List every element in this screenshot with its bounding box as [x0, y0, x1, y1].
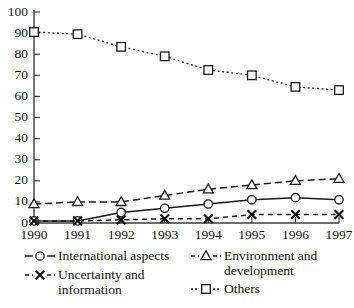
legend-column-right: Environment and development Others: [188, 248, 354, 300]
series-others: [30, 28, 344, 95]
legend-marker-circle-icon: [22, 248, 58, 264]
x-tick-label: 1992: [108, 227, 135, 242]
legend-label: International aspects: [58, 248, 169, 263]
data-point-square: [202, 285, 211, 294]
legend-item-uncertainty: Uncertainty and information: [22, 267, 190, 297]
data-point-square: [335, 86, 344, 95]
data-point-square: [248, 71, 257, 80]
y-tick-label: 70: [15, 67, 29, 82]
data-point-circle: [117, 208, 125, 216]
legend-item-others: Others: [188, 281, 354, 297]
data-point-circle: [204, 200, 212, 208]
x-tick-label: 1994: [195, 227, 222, 242]
data-point-circle: [36, 252, 44, 260]
legend-label: Uncertainty and information: [58, 267, 145, 297]
y-tick-label: 100: [8, 4, 29, 19]
data-point-triangle: [334, 173, 344, 182]
series-layer: [29, 28, 344, 225]
x-tick-label: 1993: [151, 227, 178, 242]
y-axis: 0102030405060708090100: [8, 4, 40, 230]
legend-marker-square-icon: [188, 281, 224, 297]
legend-label: Others: [224, 281, 260, 296]
y-tick-label: 30: [15, 151, 29, 166]
data-point-x: [36, 271, 45, 280]
x-tick-label: 1991: [64, 227, 91, 242]
data-point-circle: [161, 204, 169, 212]
y-tick-label: 50: [15, 109, 29, 124]
legend-label: Environment and development: [224, 248, 317, 278]
data-point-square: [204, 66, 213, 75]
y-tick-label: 40: [15, 130, 29, 145]
plot-area: 0102030405060708090100 19901991199219931…: [0, 0, 354, 245]
x-tick-label: 1990: [21, 227, 48, 242]
data-point-circle: [291, 193, 299, 201]
data-point-square: [160, 52, 169, 61]
y-tick-label: 90: [15, 25, 29, 40]
y-tick-label: 20: [15, 172, 29, 187]
legend-item-international: International aspects: [22, 248, 190, 264]
y-tick-label: 80: [15, 46, 29, 61]
x-tick-label: 1997: [326, 227, 353, 242]
series-line: [34, 32, 339, 90]
series-environment-and-development: [29, 173, 344, 207]
data-point-triangle: [201, 251, 211, 260]
legend-marker-x-icon: [22, 267, 58, 283]
data-point-circle: [335, 196, 343, 204]
chart-legend: International aspects Uncertainty and in…: [0, 248, 354, 308]
data-point-triangle: [73, 197, 83, 206]
line-chart: 0102030405060708090100 19901991199219931…: [0, 0, 354, 308]
data-point-square: [117, 43, 126, 52]
data-point-circle: [248, 196, 256, 204]
x-tick-label: 1995: [238, 227, 265, 242]
plot-svg: 0102030405060708090100 19901991199219931…: [0, 0, 354, 245]
legend-column-left: International aspects Uncertainty and in…: [22, 248, 190, 300]
y-tick-label: 60: [15, 88, 29, 103]
data-point-square: [73, 30, 82, 39]
x-tick-label: 1996: [282, 227, 309, 242]
legend-item-environment: Environment and development: [188, 248, 354, 278]
data-point-square: [291, 83, 300, 92]
data-point-square: [30, 28, 39, 37]
legend-marker-triangle-icon: [188, 248, 224, 264]
y-tick-label: 10: [15, 193, 29, 208]
